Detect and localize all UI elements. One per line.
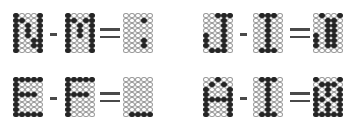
- filled-dot: [37, 48, 42, 53]
- empty-dot: [83, 112, 88, 117]
- empty-dot: [129, 48, 134, 53]
- empty-dot: [325, 48, 330, 53]
- empty-dot: [25, 48, 30, 53]
- filled-dot: [227, 112, 232, 117]
- empty-dot: [319, 48, 324, 53]
- filled-dot: [13, 112, 18, 117]
- equation-e-minus-f: [0, 76, 180, 120]
- filled-dot: [331, 112, 336, 117]
- equation-n-minus-m: [0, 12, 180, 56]
- operand1-grid: [13, 13, 43, 53]
- operand2-grid: [65, 77, 95, 117]
- filled-dot: [89, 48, 94, 53]
- empty-dot: [89, 112, 94, 117]
- empty-dot: [71, 112, 76, 117]
- empty-dot: [203, 48, 208, 53]
- minus-sign: [50, 33, 57, 36]
- filled-dot: [265, 112, 270, 117]
- empty-dot: [227, 48, 232, 53]
- filled-dot: [31, 112, 36, 117]
- empty-dot: [141, 48, 146, 53]
- operand2-grid: [65, 13, 95, 53]
- empty-dot: [277, 112, 282, 117]
- filled-dot: [25, 112, 30, 117]
- filled-dot: [147, 112, 152, 117]
- equals-sign: [100, 92, 120, 102]
- empty-dot: [77, 48, 82, 53]
- filled-dot: [203, 112, 208, 117]
- equals-sign: [290, 92, 310, 102]
- empty-dot: [277, 48, 282, 53]
- filled-dot: [313, 112, 318, 117]
- empty-dot: [253, 48, 258, 53]
- filled-dot: [141, 112, 146, 117]
- operand1-grid: [203, 13, 233, 53]
- empty-dot: [135, 48, 140, 53]
- filled-dot: [13, 48, 18, 53]
- equals-sign: [290, 28, 310, 38]
- equation-a-minus-i: [180, 76, 359, 120]
- filled-dot: [19, 112, 24, 117]
- result-grid: [123, 13, 153, 53]
- empty-dot: [313, 48, 318, 53]
- empty-dot: [71, 48, 76, 53]
- filled-dot: [325, 112, 330, 117]
- filled-dot: [271, 112, 276, 117]
- filled-dot: [221, 48, 226, 53]
- empty-dot: [123, 112, 128, 117]
- empty-dot: [221, 112, 226, 117]
- filled-dot: [259, 112, 264, 117]
- minus-sign: [50, 97, 57, 100]
- equation-j-minus-i: [180, 12, 359, 56]
- filled-dot: [319, 112, 324, 117]
- empty-dot: [31, 48, 36, 53]
- operand1-grid: [13, 77, 43, 117]
- filled-dot: [65, 112, 70, 117]
- filled-dot: [129, 112, 134, 117]
- empty-dot: [331, 48, 336, 53]
- empty-dot: [337, 48, 342, 53]
- empty-dot: [253, 112, 258, 117]
- filled-dot: [209, 48, 214, 53]
- empty-dot: [215, 112, 220, 117]
- empty-dot: [209, 112, 214, 117]
- filled-dot: [215, 48, 220, 53]
- operand2-grid: [253, 13, 283, 53]
- result-grid: [123, 77, 153, 117]
- operand1-grid: [203, 77, 233, 117]
- equals-sign: [100, 28, 120, 38]
- filled-dot: [135, 112, 140, 117]
- filled-dot: [65, 48, 70, 53]
- empty-dot: [83, 48, 88, 53]
- filled-dot: [265, 48, 270, 53]
- empty-dot: [19, 48, 24, 53]
- filled-dot: [337, 112, 342, 117]
- minus-sign: [240, 97, 247, 100]
- result-grid: [313, 13, 343, 53]
- filled-dot: [271, 48, 276, 53]
- empty-dot: [147, 48, 152, 53]
- filled-dot: [37, 112, 42, 117]
- empty-dot: [123, 48, 128, 53]
- minus-sign: [240, 33, 247, 36]
- result-grid: [313, 77, 343, 117]
- empty-dot: [77, 112, 82, 117]
- operand2-grid: [253, 77, 283, 117]
- filled-dot: [259, 48, 264, 53]
